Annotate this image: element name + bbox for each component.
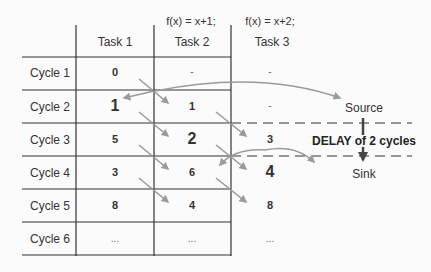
cell-c6-t1: ... (111, 234, 119, 244)
pipeline-diagram: f(x) = x+1; f(x) = x+2; Task 1 Task 2 Ta… (0, 0, 431, 272)
cell-c4-t3: 4 (266, 164, 275, 180)
cell-c1-t3: - (268, 67, 271, 77)
cell-c5-t1: 8 (112, 200, 118, 211)
cell-c2-t2: 1 (189, 101, 195, 112)
row-label-cycle-5: Cycle 5 (30, 200, 70, 212)
cell-c6-t3: ... (266, 234, 274, 244)
cell-c1-t1: 0 (112, 67, 118, 78)
column-header-task-3: Task 3 (255, 36, 290, 48)
source-arrows (124, 82, 340, 98)
cell-c2-t1: 1 (111, 98, 120, 114)
cell-c5-t3: 8 (267, 200, 273, 211)
row-label-cycle-6: Cycle 6 (30, 233, 70, 245)
sink-label: Sink (352, 168, 375, 180)
task2-formula: f(x) = x+1; (166, 16, 216, 27)
row-label-cycle-2: Cycle 2 (30, 101, 70, 113)
cell-c2-t3: - (268, 101, 271, 111)
source-label: Source (345, 102, 383, 114)
cell-c3-t1: 5 (112, 134, 118, 145)
cell-c4-t2: 6 (189, 167, 195, 178)
column-header-task-1: Task 1 (98, 36, 133, 48)
delay-label: DELAY of 2 cycles (310, 135, 418, 147)
cell-c1-t2: - (190, 67, 193, 77)
cell-c6-t2: ... (188, 234, 196, 244)
column-header-task-2: Task 2 (175, 36, 210, 48)
cell-c3-t2: 2 (188, 131, 197, 147)
row-label-cycle-1: Cycle 1 (30, 67, 70, 79)
cell-c4-t1: 3 (112, 167, 118, 178)
cell-c3-t3: 3 (267, 134, 273, 145)
row-label-cycle-4: Cycle 4 (30, 167, 70, 179)
task3-formula: f(x) = x+2; (245, 16, 295, 27)
row-label-cycle-3: Cycle 3 (30, 134, 70, 146)
cell-c5-t2: 4 (189, 200, 195, 211)
